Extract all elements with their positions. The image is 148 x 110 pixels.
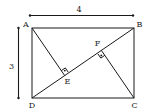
vertex-label-b: B: [137, 20, 143, 29]
vertex-label-c: C: [131, 101, 137, 110]
segment-cf: [101, 50, 134, 98]
geometry-diagram: 4 3 A B C D E F: [0, 0, 148, 109]
point-label-e: E: [65, 77, 71, 86]
height-dimension: 3: [9, 27, 20, 99]
vertex-label-d: D: [29, 101, 35, 110]
width-dimension: 4: [29, 5, 134, 17]
segment-ae: [32, 28, 65, 76]
vertex-label-a: A: [22, 20, 29, 29]
diagonal-db: [32, 28, 134, 98]
point-label-f: F: [95, 39, 101, 48]
height-label: 3: [9, 62, 14, 71]
width-label: 4: [76, 5, 81, 14]
